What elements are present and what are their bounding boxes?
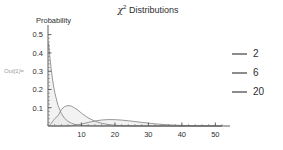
- legend-swatch-icon: [232, 91, 247, 93]
- legend-item[interactable]: 20: [232, 82, 282, 101]
- chart-root: Out[1]= χ2 Distributions Probability 102…: [0, 0, 283, 150]
- legend-swatch-icon: [232, 53, 247, 55]
- y-tick-label: 0.3: [33, 67, 43, 76]
- y-tick-label: 0.4: [33, 49, 43, 58]
- series-fills: [49, 43, 222, 126]
- legend-item[interactable]: 6: [232, 63, 282, 82]
- x-tick-label: 30: [144, 130, 152, 139]
- legend-label: 2: [253, 49, 259, 59]
- x-tick-label: 20: [111, 130, 119, 139]
- legend-item[interactable]: 2: [232, 44, 282, 63]
- legend-label: 20: [253, 87, 264, 97]
- legend: 2620: [232, 44, 282, 101]
- x-tick-label: 40: [178, 130, 186, 139]
- y-tick-label: 0.1: [33, 104, 43, 113]
- legend-swatch-icon: [232, 72, 247, 74]
- x-tick-label: 50: [211, 130, 219, 139]
- y-tick-label: 0.2: [33, 85, 43, 94]
- y-tick-label: 0.5: [33, 30, 43, 39]
- x-tick-label: 10: [77, 130, 85, 139]
- legend-label: 6: [253, 68, 259, 78]
